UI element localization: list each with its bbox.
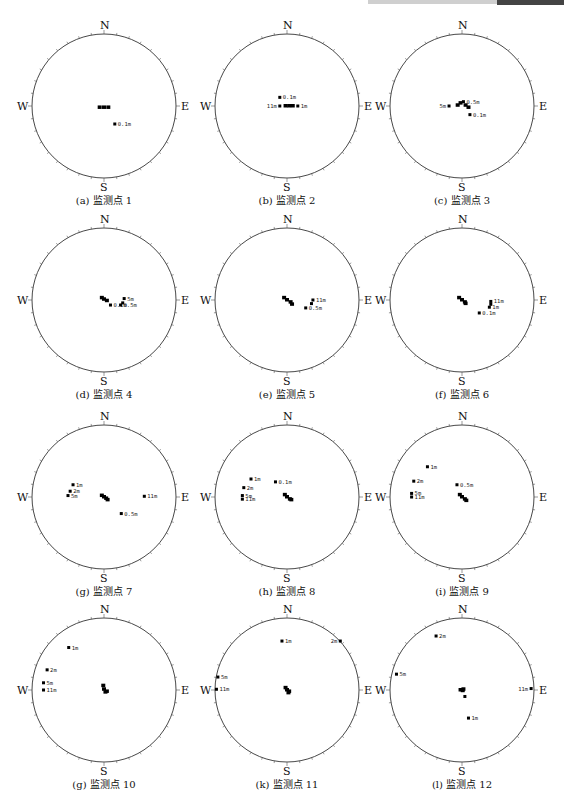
- tick-mark: [342, 449, 344, 450]
- compass-label-s: S: [458, 182, 466, 193]
- compass-label-e: E: [539, 492, 547, 503]
- tick-mark: [150, 49, 151, 51]
- tick-mark: [498, 362, 499, 364]
- tick-mark: [79, 230, 80, 232]
- compass-label-s: S: [100, 182, 108, 193]
- compass-label-e: E: [181, 101, 189, 112]
- tick-mark: [159, 346, 161, 347]
- cluster-marker: [285, 298, 289, 302]
- data-point-label: 2m: [439, 633, 446, 639]
- tick-mark: [47, 543, 49, 544]
- chapter-header-tab: [497, 0, 564, 5]
- compass-label-w: W: [375, 295, 386, 306]
- compass-label-w: W: [375, 101, 386, 112]
- stereonet-canvas: 0.5m5m0.1m: [370, 18, 554, 198]
- cluster-marker: [466, 105, 470, 109]
- tick-mark: [398, 142, 400, 143]
- tick-mark: [312, 620, 313, 622]
- tick-mark: [437, 174, 438, 176]
- tick-mark: [524, 653, 526, 654]
- tick-mark: [40, 336, 42, 337]
- tick-mark: [79, 427, 80, 429]
- tick-mark: [437, 368, 438, 370]
- tick-mark: [323, 42, 324, 44]
- compass-label-w: W: [375, 492, 386, 503]
- stereonet-plot-h: 1m0.1m2m5m11mNESW(h) 监测点 8: [195, 409, 379, 609]
- data-point-label: 11m: [267, 103, 278, 109]
- tick-mark: [239, 355, 240, 357]
- tick-mark: [508, 440, 509, 442]
- cluster-marker: [101, 684, 105, 688]
- tick-mark: [392, 472, 394, 473]
- tick-mark: [524, 142, 526, 143]
- tick-mark: [34, 715, 36, 716]
- data-point-marker: [143, 495, 146, 498]
- tick-mark: [398, 69, 400, 70]
- tick-mark: [530, 665, 532, 666]
- data-point-marker: [42, 689, 45, 692]
- tick-mark: [333, 49, 334, 51]
- tick-mark: [140, 559, 141, 561]
- data-point-marker: [339, 640, 342, 643]
- data-point-marker: [274, 480, 277, 483]
- cluster-marker: [106, 498, 110, 502]
- data-point-marker: [216, 676, 219, 679]
- tick-mark: [250, 433, 251, 435]
- subplot-caption: (l) 监测点 12: [370, 779, 554, 791]
- tick-mark: [239, 161, 240, 163]
- subplot-caption: (g) 监测点 7: [12, 586, 196, 598]
- tick-mark: [342, 543, 344, 544]
- tick-mark: [312, 174, 313, 176]
- tick-mark: [524, 726, 526, 727]
- tick-mark: [333, 440, 334, 442]
- tick-mark: [425, 752, 426, 754]
- tick-mark: [355, 472, 357, 473]
- tick-mark: [166, 460, 168, 461]
- tick-mark: [150, 161, 151, 163]
- data-point-marker: [311, 299, 314, 302]
- tick-mark: [342, 642, 344, 643]
- tick-mark: [323, 752, 324, 754]
- tick-mark: [508, 49, 509, 51]
- data-point-marker: [241, 494, 244, 497]
- tick-mark: [172, 275, 174, 276]
- tick-mark: [223, 653, 225, 654]
- tick-mark: [517, 252, 519, 253]
- tick-mark: [517, 58, 519, 59]
- data-point-marker: [395, 673, 398, 676]
- tick-mark: [56, 440, 57, 442]
- tick-mark: [508, 552, 509, 554]
- tick-mark: [349, 726, 351, 727]
- tick-mark: [262, 620, 263, 622]
- compass-label-n: N: [100, 20, 110, 31]
- data-point-label: 0.5m: [124, 511, 138, 517]
- tick-mark: [223, 142, 225, 143]
- tick-mark: [349, 142, 351, 143]
- tick-mark: [159, 543, 161, 544]
- tick-mark: [262, 230, 263, 232]
- data-point-marker: [250, 478, 253, 481]
- compass-label-w: W: [200, 295, 211, 306]
- data-point-label: 11m: [518, 686, 529, 692]
- tick-mark: [34, 275, 36, 276]
- tick-mark: [140, 362, 141, 364]
- tick-mark: [150, 633, 151, 635]
- data-point-label: 0.1m: [278, 479, 292, 485]
- tick-mark: [342, 152, 344, 153]
- compass-label-w: W: [200, 685, 211, 696]
- tick-mark: [239, 633, 240, 635]
- tick-mark: [217, 131, 219, 132]
- data-point-label: 5m: [47, 680, 54, 686]
- tick-mark: [498, 752, 499, 754]
- tick-mark: [239, 49, 240, 51]
- tick-mark: [405, 736, 407, 737]
- tick-mark: [166, 336, 168, 337]
- tick-mark: [405, 449, 407, 450]
- tick-mark: [40, 69, 42, 70]
- compass-label-w: W: [200, 492, 211, 503]
- tick-mark: [223, 263, 225, 264]
- tick-mark: [47, 58, 49, 59]
- tick-mark: [349, 533, 351, 534]
- tick-mark: [414, 355, 415, 357]
- tick-mark: [262, 36, 263, 38]
